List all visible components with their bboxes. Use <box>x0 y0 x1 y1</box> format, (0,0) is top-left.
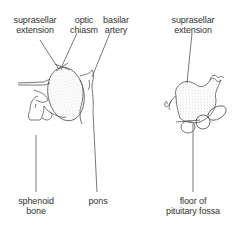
leader-optic-chiasm <box>62 33 77 66</box>
label-line: floor of <box>160 196 226 206</box>
label-suprasellar-extension-right: suprasellar extension <box>164 15 222 35</box>
leader-suprasellar-right <box>187 33 192 83</box>
label-line: pituitary fossa <box>160 206 226 216</box>
label-optic-chiasm: optic chiasm <box>66 15 102 35</box>
label-floor-of-pituitary-fossa: floor of pituitary fossa <box>160 196 226 216</box>
right-sagittal-drawing <box>165 33 229 192</box>
label-line: pons <box>86 196 110 206</box>
label-line: chiasm <box>66 25 102 35</box>
left-sagittal-drawing <box>18 33 110 192</box>
label-pons: pons <box>86 196 110 206</box>
leader-basilar-artery <box>92 33 110 77</box>
label-line: basilar <box>98 15 134 25</box>
label-line: extension <box>164 25 222 35</box>
label-line: sphenoid <box>14 196 58 206</box>
label-suprasellar-extension-left: suprasellar extension <box>7 15 63 35</box>
label-line: bone <box>14 206 58 216</box>
label-line: artery <box>98 25 134 35</box>
label-line: suprasellar <box>7 15 63 25</box>
label-line: extension <box>7 25 63 35</box>
label-line: optic <box>66 15 102 25</box>
label-line: suprasellar <box>164 15 222 25</box>
label-basilar-artery: basilar artery <box>98 15 134 35</box>
leader-pons <box>93 112 97 192</box>
label-sphenoid-bone: sphenoid bone <box>14 196 58 216</box>
